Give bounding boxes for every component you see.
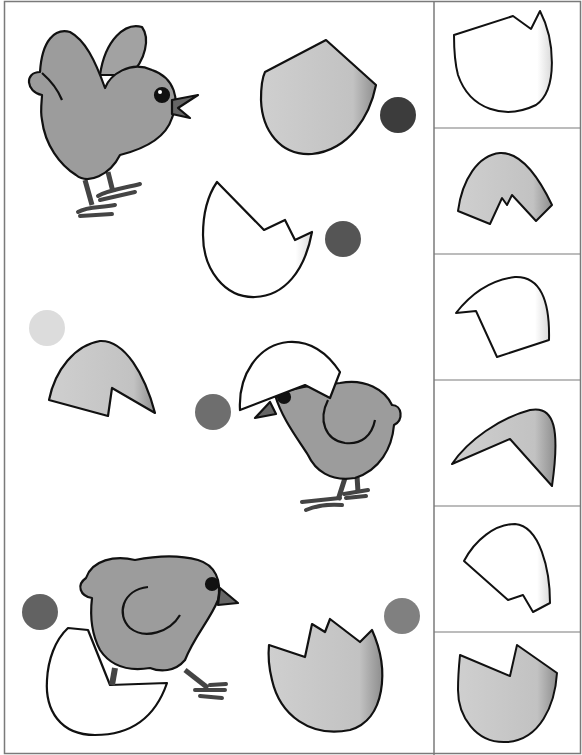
chick-with-shell-hat <box>240 342 401 510</box>
worksheet <box>0 0 582 755</box>
cutout-piece-5[interactable] <box>464 524 550 612</box>
cutout-piece-3[interactable] <box>456 277 549 357</box>
color-dot <box>22 594 58 630</box>
color-dot <box>29 310 65 346</box>
color-dot <box>325 221 361 257</box>
cutout-piece-2[interactable] <box>458 153 552 224</box>
cutout-piece-6[interactable] <box>458 645 557 742</box>
shell-white-bottom <box>203 182 312 297</box>
chick-standing <box>29 26 198 216</box>
color-dot <box>380 97 416 133</box>
shell-gray-cap <box>261 40 376 154</box>
cutout-piece-1[interactable] <box>454 11 552 112</box>
shell-gray-top <box>49 341 155 416</box>
chick-in-shell <box>47 556 238 735</box>
color-dot <box>195 394 231 430</box>
color-dot <box>384 598 420 634</box>
cutout-piece-4[interactable] <box>452 409 556 486</box>
shell-gray-crown <box>269 619 383 732</box>
